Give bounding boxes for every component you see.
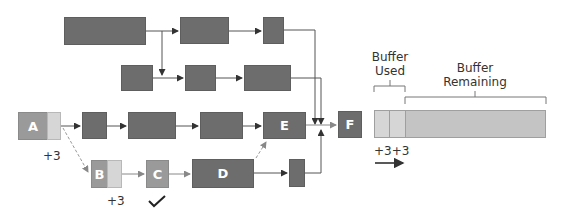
buffer-remaining xyxy=(405,110,546,138)
task-f: F xyxy=(338,111,362,138)
buffer-remaining-line1: Buffer xyxy=(440,61,510,75)
buffer-delays-label: +3+3 xyxy=(374,144,409,158)
task-box xyxy=(121,65,153,91)
buffer-used-line2: Used xyxy=(370,64,410,78)
buffer-remaining-label: Buffer Remaining xyxy=(440,61,510,89)
buffer-used-1 xyxy=(374,110,390,138)
task-box xyxy=(180,17,229,44)
buffer-used-line1: Buffer xyxy=(370,50,410,64)
task-e: E xyxy=(263,112,306,139)
task-box xyxy=(82,112,107,139)
task-box xyxy=(64,17,146,45)
task-box xyxy=(244,65,291,91)
task-a: A xyxy=(18,112,48,140)
task-box xyxy=(128,112,176,139)
task-box xyxy=(185,65,216,91)
buffer-remaining-line2: Remaining xyxy=(440,75,510,89)
b-delay-label: +3 xyxy=(107,194,125,208)
task-b-delay xyxy=(107,160,122,188)
buffer-used-2 xyxy=(389,110,406,138)
task-box xyxy=(289,159,305,187)
task-a-delay xyxy=(47,112,61,140)
a-delay-label: +3 xyxy=(43,149,61,163)
task-c: C xyxy=(146,160,169,188)
buffer-used-label: Buffer Used xyxy=(370,50,410,78)
task-box xyxy=(200,112,243,139)
task-d: D xyxy=(192,159,254,188)
task-box xyxy=(263,17,284,44)
task-b: B xyxy=(91,160,108,188)
